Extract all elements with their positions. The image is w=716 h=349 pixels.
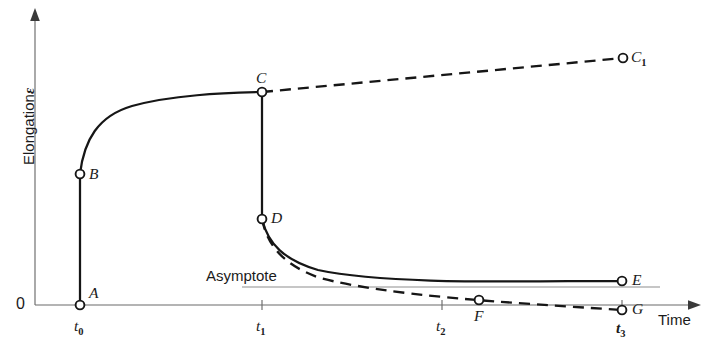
- curve-recovery-d-to-g: [262, 219, 622, 310]
- tick-label-t2-sub: 2: [440, 326, 445, 337]
- point-marker-b: [76, 170, 85, 179]
- tick-label-t3: t3: [616, 320, 626, 340]
- curve-recovery-de: [262, 219, 622, 281]
- point-label-c1: C1: [631, 49, 647, 69]
- curve-continued-creep-c-to-c1: [262, 58, 623, 92]
- point-marker-d: [258, 215, 267, 224]
- axis-group: [30, 8, 701, 310]
- x-axis-label: Time: [658, 312, 691, 327]
- y-axis-label: Elongationε: [21, 88, 37, 165]
- x-axis-arrowhead: [688, 300, 701, 310]
- point-marker-c1: [619, 54, 628, 63]
- y-axis-label-symbol: ε: [21, 88, 37, 94]
- point-marker-a: [76, 301, 85, 310]
- tick-label-t3-sub: 3: [620, 328, 625, 339]
- diagram-canvas: [0, 0, 716, 349]
- point-label-g: G: [632, 301, 643, 317]
- origin-label: 0: [16, 296, 25, 312]
- tick-label-t1: t1: [256, 318, 266, 338]
- y-axis-arrowhead: [30, 8, 40, 21]
- point-label-b: B: [89, 166, 98, 182]
- asymptote-label: Asymptote: [206, 268, 277, 283]
- point-marker-g: [618, 306, 627, 315]
- point-label-d: D: [271, 210, 282, 226]
- point-label-c1-sub: 1: [641, 57, 646, 68]
- creep-elongation-diagram: Elongationε Time 0 Asymptote t0 t1 t2 t3…: [0, 0, 716, 349]
- point-label-f: F: [474, 308, 483, 324]
- curve-group: [80, 58, 623, 310]
- point-marker-e: [618, 277, 627, 286]
- point-marker-c: [258, 88, 267, 97]
- point-label-c: C: [256, 70, 266, 86]
- point-label-a: A: [89, 285, 98, 301]
- y-axis-label-text: Elongation: [20, 94, 37, 165]
- point-label-e: E: [632, 272, 641, 288]
- curve-primary-creep-bc: [80, 92, 262, 174]
- point-marker-f: [475, 296, 484, 305]
- point-label-c1-base: C: [631, 48, 641, 65]
- tick-label-t0: t0: [74, 318, 84, 338]
- tick-label-t1-sub: 1: [260, 326, 265, 337]
- tick-label-t2: t2: [436, 318, 446, 338]
- tick-label-t0-sub: 0: [78, 326, 83, 337]
